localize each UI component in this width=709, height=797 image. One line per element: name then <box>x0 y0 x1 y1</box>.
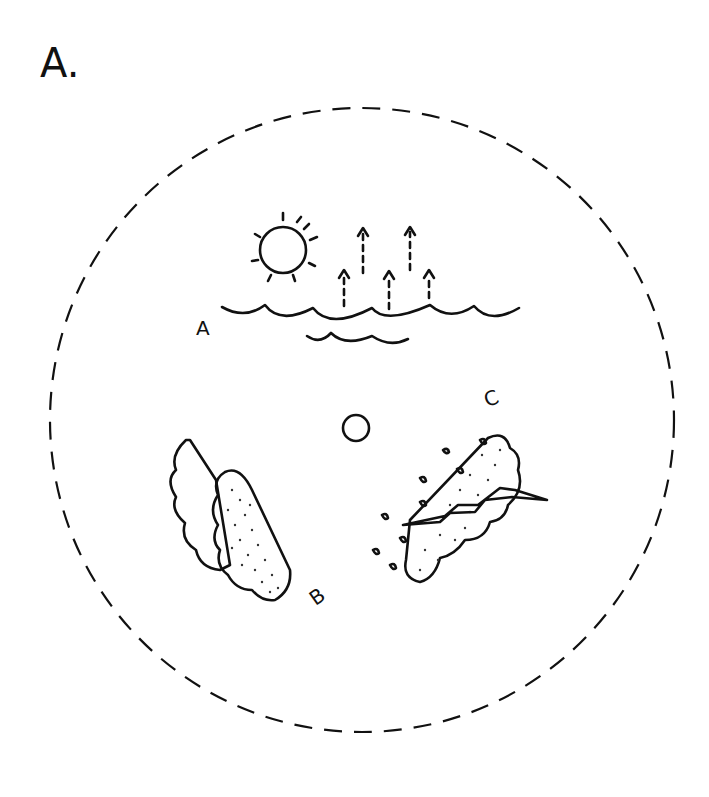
stage-label-c: C <box>480 385 501 412</box>
water-droplet-icon <box>343 415 369 441</box>
arrowheads-icon <box>339 227 434 279</box>
stage-label-b: B <box>305 583 330 611</box>
dashed-boundary-circle <box>50 108 674 732</box>
water-cycle-diagram: A B <box>0 0 709 797</box>
evaporation-arrows-icon <box>344 232 429 309</box>
sun-icon <box>252 213 317 281</box>
stage-label-a: A <box>196 316 210 340</box>
storm-cloud-icon <box>405 436 520 582</box>
ocean-waves-icon <box>222 305 519 343</box>
cumulus-cloud-icon <box>171 440 291 600</box>
